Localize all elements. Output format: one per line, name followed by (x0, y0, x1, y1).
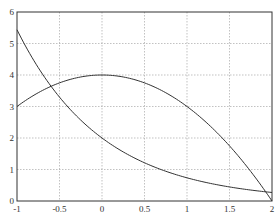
x-tick-label: 2 (270, 204, 275, 214)
y-axis-ticks: 0123456 (10, 7, 15, 206)
x-tick-label: -1 (13, 204, 21, 214)
y-tick-label: 3 (10, 102, 15, 112)
y-tick-label: 0 (10, 196, 15, 206)
y-tick-label: 4 (10, 70, 15, 80)
grid-lines (17, 12, 272, 201)
x-tick-label: 1 (185, 204, 190, 214)
x-tick-label: -0.5 (52, 204, 67, 214)
x-tick-label: 0.5 (139, 204, 151, 214)
x-axis-ticks: -1-0.500.511.52 (13, 204, 274, 214)
y-tick-label: 5 (10, 39, 15, 49)
y-tick-label: 2 (10, 133, 15, 143)
y-tick-label: 6 (10, 7, 15, 17)
x-tick-label: 1.5 (224, 204, 236, 214)
x-tick-label: 0 (100, 204, 105, 214)
line-chart: -1-0.500.511.52 0123456 (0, 0, 280, 223)
y-tick-label: 1 (10, 165, 15, 175)
